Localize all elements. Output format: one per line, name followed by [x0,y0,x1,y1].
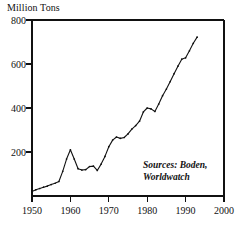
data-point [108,146,110,148]
y-tick-label-800: 800 [0,15,26,26]
data-point [73,158,75,160]
x-tick-label-1950: 1950 [16,205,48,216]
x-tick-label-1980: 1980 [131,205,163,216]
data-point [54,182,56,184]
data-point [150,108,152,110]
data-point [66,158,68,160]
data-point [70,149,72,151]
data-point [131,128,133,130]
data-point [35,189,37,191]
data-point [169,81,171,83]
source-line-1: Sources: Boden, [143,160,223,172]
data-point [112,139,114,141]
y-tick-label-600: 600 [0,59,26,70]
data-point [127,133,129,135]
data-point [47,185,49,187]
data-point [39,188,41,190]
source-line-2: Worldwatch [143,172,223,184]
x-tick-label-1990: 1990 [170,205,202,216]
source-annotation: Sources: Boden, Worldwatch [143,160,223,183]
data-point [192,42,194,44]
data-point [139,120,141,122]
data-point [154,111,156,113]
data-point [173,73,175,75]
data-point [93,165,95,167]
data-point [196,36,198,38]
data-point [81,169,83,171]
data-point [58,181,60,183]
data-point [146,107,148,109]
y-tick-label-400: 400 [0,103,26,114]
data-point [189,50,191,52]
data-point [181,58,183,60]
data-point [116,136,118,138]
x-tick-label-1970: 1970 [93,205,125,216]
data-point [104,156,106,158]
data-point [100,163,102,165]
data-point [43,186,45,188]
data-point [158,103,160,105]
data-point [162,95,164,97]
x-tick-label-2000: 2000 [208,205,240,216]
x-tick-label-1960: 1960 [54,205,86,216]
data-point [77,168,79,170]
data-point [96,170,98,172]
data-point [123,137,125,139]
data-point [143,111,145,113]
chart-container: Million Tons 800 600 400 200 1950 1960 [0,0,243,226]
plot-area [0,0,243,226]
data-point [89,166,91,168]
data-point [177,65,179,67]
data-point [85,169,87,171]
data-point [135,125,137,127]
data-point [50,184,52,186]
data-point [166,88,168,90]
data-point [62,171,64,173]
y-axis-ticks [26,20,32,152]
data-point [31,191,33,193]
data-point [119,138,121,140]
x-axis-ticks [32,196,224,202]
data-point [185,57,187,59]
y-tick-label-200: 200 [0,147,26,158]
